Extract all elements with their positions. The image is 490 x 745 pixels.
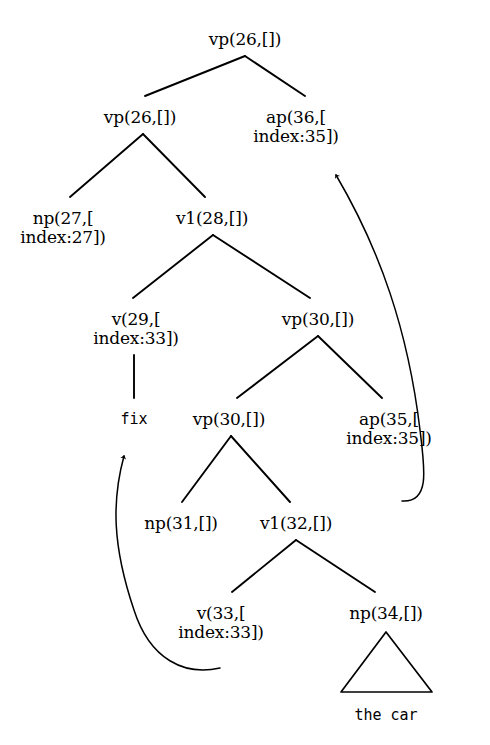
tree-edge xyxy=(237,336,318,398)
tree-node-label-line1: np(27,[ xyxy=(33,208,94,228)
tree-node-label-line1: ap(36,[ xyxy=(266,107,326,127)
tree-node-label-line2: index:33]) xyxy=(93,329,179,348)
tree-node-label-line2: index:33]) xyxy=(178,623,264,642)
tree-node-n32: v1(32,[]) xyxy=(260,514,332,533)
tree-node-n29: v(29,[index:33]) xyxy=(93,310,179,348)
tree-node-label-line1: v1(28,[]) xyxy=(176,208,248,228)
tree-terminal-t_thecar: the car xyxy=(354,706,417,724)
tree-node-label-line1: ap(35,[ xyxy=(359,409,419,429)
tree-node-label-line1: v(33,[ xyxy=(197,603,246,623)
tree-edge xyxy=(245,56,305,96)
tree-node-n31: np(31,[]) xyxy=(144,514,218,533)
tree-edge xyxy=(145,56,245,96)
elided-constituent-triangles xyxy=(341,632,432,692)
tree-node-label-line1: vp(26,[]) xyxy=(209,29,281,49)
tree-edge xyxy=(133,235,213,298)
tree-node-n27: np(27,[index:27]) xyxy=(20,209,106,247)
tree-node-n34: np(34,[]) xyxy=(349,604,423,623)
tree-edge xyxy=(70,134,143,197)
tree-edge xyxy=(182,436,231,502)
arrow-ap35-to-ap36 xyxy=(336,175,424,501)
tree-node-n35: ap(35,[index:35]) xyxy=(346,410,432,448)
tree-edge xyxy=(296,540,375,592)
tree-node-label-line1: vp(30,[]) xyxy=(282,309,354,329)
tree-node-label-line1: np(31,[]) xyxy=(144,513,218,533)
tree-terminal-t_fix: fix xyxy=(120,410,147,428)
tree-node-label-line1: v(29,[ xyxy=(112,309,161,329)
tree-edge xyxy=(143,134,205,197)
tree-edge xyxy=(231,436,290,502)
tree-node-n36: ap(36,[index:35]) xyxy=(253,108,339,146)
tree-edge xyxy=(232,540,296,592)
tree-node-label-line1: vp(26,[]) xyxy=(104,107,176,127)
tree-node-n33: v(33,[index:33]) xyxy=(178,604,264,642)
tree-node-label-line2: index:35]) xyxy=(346,429,432,448)
tree-node-label-line2: index:27]) xyxy=(20,228,106,247)
tree-node-n26left: vp(26,[]) xyxy=(104,108,176,127)
tree-node-label-line1: vp(30,[]) xyxy=(193,409,265,429)
syntax-tree-figure: vp(26,[])vp(26,[])ap(36,[index:35])np(27… xyxy=(0,0,490,745)
tree-edge xyxy=(213,235,310,298)
elided-constituent-triangle xyxy=(341,632,432,692)
tree-node-n26root: vp(26,[]) xyxy=(209,30,281,49)
tree-node-label-line2: index:35]) xyxy=(253,127,339,146)
tree-node-n30lower: vp(30,[]) xyxy=(193,410,265,429)
tree-edge xyxy=(318,336,382,398)
tree-node-n30upper: vp(30,[]) xyxy=(282,310,354,329)
tree-node-label-line1: np(34,[]) xyxy=(349,603,423,623)
tree-node-label-line1: v1(32,[]) xyxy=(260,513,332,533)
tree-node-n28: v1(28,[]) xyxy=(176,209,248,228)
